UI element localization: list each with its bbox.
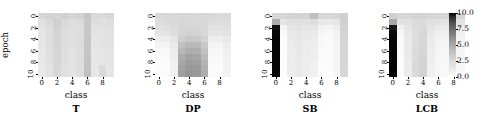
- heatmap-grid-t: [38, 13, 114, 77]
- x-tick-mark: [306, 77, 307, 79]
- y-tick-mark: [270, 51, 272, 52]
- x-tick-label: 2: [403, 79, 413, 88]
- x-tick-label: 6: [316, 79, 326, 88]
- heatmap-grid-dp: [155, 13, 231, 77]
- x-tick-mark: [438, 77, 439, 79]
- y-tick-mark: [270, 16, 272, 17]
- x-tick-label: 0: [37, 79, 47, 88]
- panel-title-dp: DP: [155, 103, 231, 114]
- x-tick-label: 4: [67, 79, 77, 88]
- y-tick-label: 0: [369, 12, 387, 20]
- heatmap-cell: [76, 71, 84, 77]
- x-tick-mark: [72, 77, 73, 79]
- x-tick-mark: [159, 77, 160, 79]
- y-tick-label: 10: [369, 70, 387, 78]
- y-tick-mark: [387, 51, 389, 52]
- x-tick-mark: [291, 77, 292, 79]
- y-tick-label: 8: [135, 58, 153, 66]
- x-tick-label: 8: [332, 79, 342, 88]
- y-tick-mark: [153, 39, 155, 40]
- y-tick-label: 2: [135, 24, 153, 32]
- colorbar-tick-label: 5.0: [457, 41, 469, 49]
- y-axis-ticks-lcb: 0246810: [369, 13, 387, 77]
- heatmap-cell: [427, 71, 435, 77]
- x-tick-label: 6: [199, 79, 209, 88]
- x-axis-ticks-lcb: 02468: [389, 78, 465, 88]
- x-axis-label-sb: class: [272, 90, 348, 100]
- panel-dp: epoch 0246810 02468 class DP: [117, 0, 235, 124]
- heatmap-cell: [193, 71, 201, 77]
- y-tick-mark: [153, 74, 155, 75]
- x-tick-mark: [454, 77, 455, 79]
- y-tick-label: 4: [252, 35, 270, 43]
- x-tick-mark: [204, 77, 205, 79]
- colorbar-tick-label: 0.0: [457, 73, 469, 81]
- colorbar: [449, 13, 456, 77]
- x-tick-label: 6: [433, 79, 443, 88]
- y-tick-label: 4: [18, 35, 36, 43]
- colorbar-tick-label: 2.5: [457, 57, 469, 65]
- x-tick-mark: [423, 77, 424, 79]
- x-axis-label-lcb: class: [389, 90, 465, 100]
- y-tick-label: 10: [135, 70, 153, 78]
- y-tick-mark: [387, 74, 389, 75]
- x-tick-label: 4: [418, 79, 428, 88]
- y-axis-ticks-t: 0246810: [18, 13, 36, 77]
- y-tick-mark: [387, 28, 389, 29]
- x-axis-label-t: class: [38, 90, 114, 100]
- x-tick-mark: [337, 77, 338, 79]
- y-tick-label: 2: [369, 24, 387, 32]
- y-axis-label-t: epoch: [0, 13, 11, 77]
- y-tick-mark: [36, 28, 38, 29]
- panel-title-lcb: LCB: [389, 103, 465, 114]
- panel-title-sb: SB: [272, 103, 348, 114]
- colorbar-tick-mark: [456, 77, 458, 78]
- y-tick-mark: [36, 51, 38, 52]
- heatmap-cell: [325, 71, 333, 77]
- y-tick-label: 6: [18, 47, 36, 55]
- y-tick-mark: [153, 51, 155, 52]
- heatmap-cell: [412, 71, 420, 77]
- x-tick-label: 2: [52, 79, 62, 88]
- y-tick-mark: [153, 28, 155, 29]
- y-tick-mark: [36, 16, 38, 17]
- x-tick-mark: [57, 77, 58, 79]
- y-tick-label: 6: [135, 47, 153, 55]
- y-tick-label: 6: [252, 47, 270, 55]
- x-tick-mark: [220, 77, 221, 79]
- x-tick-label: 8: [98, 79, 108, 88]
- heatmap-cell: [61, 71, 69, 77]
- heatmap-cell: [91, 71, 99, 77]
- y-tick-mark: [387, 16, 389, 17]
- heatmap-cell: [280, 71, 288, 77]
- x-tick-label: 0: [154, 79, 164, 88]
- y-tick-mark: [387, 39, 389, 40]
- y-tick-label: 0: [18, 12, 36, 20]
- colorbar-tick-mark: [456, 13, 458, 14]
- heatmap-cell: [46, 71, 54, 77]
- y-tick-label: 0: [135, 12, 153, 20]
- y-tick-mark: [270, 39, 272, 40]
- x-tick-label: 8: [215, 79, 225, 88]
- x-tick-mark: [408, 77, 409, 79]
- x-tick-mark: [103, 77, 104, 79]
- x-tick-label: 6: [82, 79, 92, 88]
- x-tick-label: 4: [184, 79, 194, 88]
- y-tick-mark: [36, 39, 38, 40]
- x-tick-label: 0: [388, 79, 398, 88]
- x-tick-label: 4: [301, 79, 311, 88]
- panel-t: epoch 0246810 02468 class T: [0, 0, 118, 124]
- heatmap-cell: [208, 71, 216, 77]
- y-tick-mark: [36, 62, 38, 63]
- x-tick-mark: [276, 77, 277, 79]
- y-tick-mark: [387, 62, 389, 63]
- x-tick-mark: [189, 77, 190, 79]
- x-tick-label: 0: [271, 79, 281, 88]
- y-tick-label: 4: [369, 35, 387, 43]
- y-tick-mark: [270, 62, 272, 63]
- y-tick-mark: [270, 28, 272, 29]
- x-axis-ticks-dp: 02468: [155, 78, 231, 88]
- y-tick-label: 10: [18, 70, 36, 78]
- y-tick-label: 8: [18, 58, 36, 66]
- heatmap-figure: epoch 0246810 02468 class T epoch 024681…: [0, 0, 483, 124]
